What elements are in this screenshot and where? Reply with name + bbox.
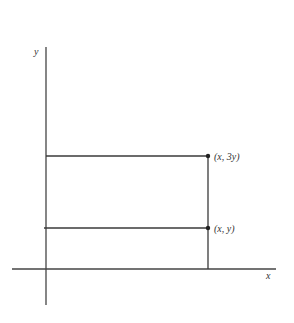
point-label-x-3y: (x, 3y) [214,151,240,163]
coordinate-diagram: y x (x, 3y) (x, y) [0,0,294,323]
x-axis-label: x [265,270,271,281]
point-x-y [206,226,210,230]
point-label-x-y: (x, y) [214,223,235,235]
point-x-3y [206,154,210,158]
y-axis-label: y [33,46,39,57]
